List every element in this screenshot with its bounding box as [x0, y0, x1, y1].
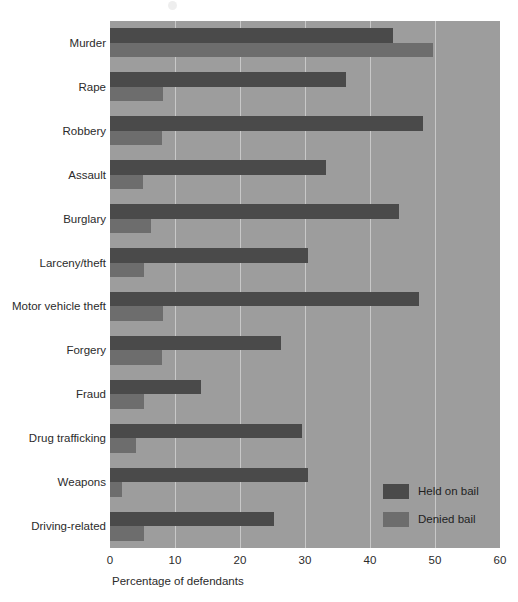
category-label-assault: Assault	[2, 169, 106, 181]
category-label-burglary: Burglary	[2, 213, 106, 225]
legend-label: Denied bail	[418, 513, 476, 525]
scan-artifact	[168, 1, 177, 10]
x-tick-50: 50	[429, 554, 442, 566]
category-axis-labels: MurderRapeRobberyAssaultBurglaryLarceny/…	[0, 21, 106, 548]
bar-weapons-held-on-bail	[110, 468, 308, 483]
bar-larceny-theft-held-on-bail	[110, 248, 308, 263]
category-label-fraud: Fraud	[2, 388, 106, 400]
bar-burglary-denied-bail	[110, 219, 151, 234]
bar-forgery-held-on-bail	[110, 336, 281, 351]
bar-robbery-held-on-bail	[110, 116, 423, 131]
bar-chart: MurderRapeRobberyAssaultBurglaryLarceny/…	[0, 0, 518, 602]
legend-label: Held on bail	[418, 485, 479, 497]
x-tick-0: 0	[107, 554, 113, 566]
bar-motor-vehicle-theft-denied-bail	[110, 306, 163, 321]
category-label-weapons: Weapons	[2, 476, 106, 488]
category-label-forgery: Forgery	[2, 344, 106, 356]
legend-swatch-held	[383, 484, 409, 499]
category-label-rape: Rape	[2, 81, 106, 93]
legend-item-denied-bail: Denied bail	[383, 508, 503, 530]
bar-larceny-theft-denied-bail	[110, 263, 144, 278]
chart-legend: Held on bailDenied bail	[383, 480, 503, 536]
bar-driving-related-denied-bail	[110, 526, 144, 541]
category-label-murder: Murder	[2, 37, 106, 49]
bar-driving-related-held-on-bail	[110, 512, 274, 527]
legend-item-held-on-bail: Held on bail	[383, 480, 503, 502]
gridline-40	[370, 21, 371, 548]
category-label-robbery: Robbery	[2, 125, 106, 137]
x-tick-30: 30	[299, 554, 312, 566]
plot-area	[110, 21, 500, 548]
x-tick-20: 20	[234, 554, 247, 566]
category-label-driving-related: Driving-related	[2, 520, 106, 532]
legend-swatch-denied	[383, 512, 409, 527]
bar-fraud-held-on-bail	[110, 380, 201, 395]
bar-robbery-denied-bail	[110, 131, 162, 146]
x-axis: 0102030405060	[110, 548, 500, 574]
bar-weapons-denied-bail	[110, 482, 122, 497]
bar-murder-held-on-bail	[110, 28, 393, 43]
x-tick-40: 40	[364, 554, 377, 566]
bar-rape-denied-bail	[110, 87, 163, 102]
bar-forgery-denied-bail	[110, 350, 162, 365]
category-label-larceny-theft: Larceny/theft	[2, 257, 106, 269]
x-tick-10: 10	[169, 554, 182, 566]
bar-assault-held-on-bail	[110, 160, 326, 175]
bar-burglary-held-on-bail	[110, 204, 399, 219]
bar-fraud-denied-bail	[110, 394, 144, 409]
bar-drug-trafficking-denied-bail	[110, 438, 136, 453]
x-axis-title: Percentage of defendants	[112, 575, 244, 587]
category-label-motor-vehicle-theft: Motor vehicle theft	[2, 300, 106, 312]
bar-murder-denied-bail	[110, 43, 433, 58]
bar-motor-vehicle-theft-held-on-bail	[110, 292, 419, 307]
category-label-drug-trafficking: Drug trafficking	[2, 432, 106, 444]
bar-rape-held-on-bail	[110, 72, 346, 87]
x-tick-60: 60	[494, 554, 507, 566]
bar-assault-denied-bail	[110, 175, 143, 190]
bar-drug-trafficking-held-on-bail	[110, 424, 302, 439]
gridline-50	[435, 21, 436, 548]
